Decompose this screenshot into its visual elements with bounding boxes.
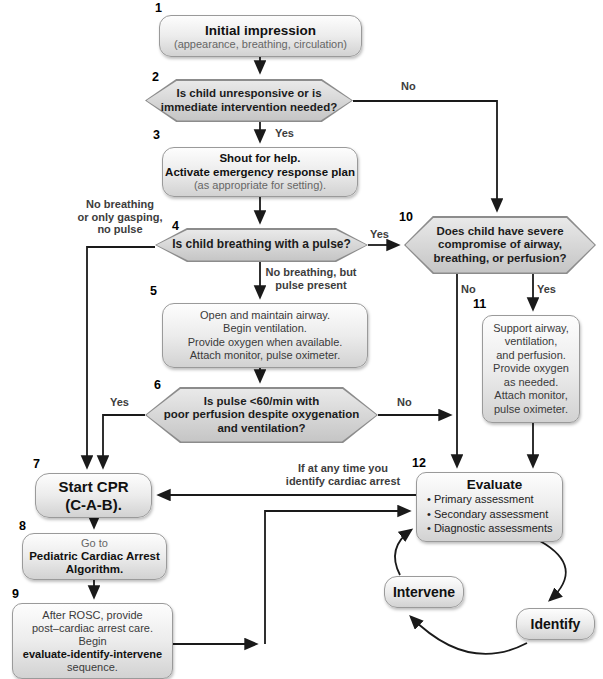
decision-line: breathing, or perfusion? (434, 252, 567, 266)
node-initial-impression: Initial impression (appearance, breathin… (159, 15, 362, 57)
edge-label-no-6: No (397, 396, 412, 409)
node-line: Algorithm. (66, 563, 124, 577)
node-line: pulse oximeter. (494, 403, 568, 417)
node-open-airway: Open and maintain airway. Begin ventilat… (162, 303, 368, 368)
edge-label-line: no pulse (68, 223, 172, 236)
decision-pulse-under-60: Is pulse <60/min with poor perfusion des… (145, 387, 378, 443)
step-number-9: 9 (12, 587, 19, 601)
decision-unresponsive: Is child unresponsive or is immediate in… (145, 79, 353, 122)
edge-label-line: identify cardiac arrest (277, 475, 409, 488)
node-title: Initial impression (205, 23, 316, 38)
node-line: as needed. (504, 376, 558, 390)
node-title: Evaluate (427, 477, 572, 492)
edge-label-line: If at any time you (277, 462, 409, 475)
node-line: Start CPR (58, 478, 128, 496)
edge-label-no-breathing-no-pulse: No breathing or only gasping, no pulse (68, 198, 172, 236)
node-support-airway: Support airway, ventilation, and perfusi… (482, 315, 580, 423)
edge-label-no-breathing-pulse-present: No breathing, but pulse present (250, 266, 372, 291)
node-cardiac-arrest-algorithm: Go to Pediatric Cardiac Arrest Algorithm… (22, 533, 167, 580)
node-line: Go to (81, 537, 108, 550)
node-line: (as appropriate for setting). (194, 179, 326, 192)
bullet-item: Diagnostic assessments (427, 521, 553, 536)
edge-label-line: No breathing (68, 198, 172, 211)
node-line: sequence. (67, 661, 118, 674)
node-evaluate: Evaluate Primary assessment Secondary as… (416, 472, 563, 542)
node-label: Identify (531, 616, 581, 632)
step-number-1: 1 (155, 1, 162, 15)
decision-severe-compromise: Does child have severe compromise of air… (404, 216, 596, 274)
decision-line: compromise of airway, (438, 238, 562, 252)
node-line: and perfusion. (496, 349, 566, 363)
step-number-12: 12 (412, 456, 426, 470)
edge-label-line: or only gasping, (68, 211, 172, 224)
decision-line: Is pulse <60/min with (204, 395, 319, 409)
node-line: Pediatric Cardiac Arrest (29, 550, 160, 564)
node-line: evaluate-identify-intervene (23, 648, 162, 661)
step-number-5: 5 (150, 284, 157, 298)
node-line: Shout for help. (219, 152, 300, 166)
edge-label-yes-6: Yes (110, 396, 129, 409)
step-number-7: 7 (33, 457, 40, 471)
node-line: Begin (78, 635, 106, 648)
node-line: Open and maintain airway. (200, 309, 330, 323)
edge-label-yes-4: Yes (370, 228, 389, 241)
node-shout-for-help: Shout for help. Activate emergency respo… (162, 147, 358, 197)
node-identify: Identify (516, 608, 595, 640)
node-line: Activate emergency response plan (165, 166, 355, 180)
node-line: (C-A-B). (65, 496, 122, 514)
decision-line: poor perfusion despite oxygenation (164, 408, 360, 422)
node-post-rosc-care: After ROSC, provide post–cardiac arrest … (12, 603, 173, 679)
edge-label-yes-2: Yes (275, 127, 294, 140)
node-line: Begin ventilation. (223, 322, 307, 336)
decision-line: Does child have severe (436, 225, 563, 239)
edge-label-line: No breathing, but (250, 266, 372, 279)
node-intervene: Intervene (384, 576, 464, 608)
step-number-11: 11 (473, 297, 486, 311)
bullet-item: Primary assessment (427, 492, 534, 507)
node-start-cpr: Start CPR (C-A-B). (35, 473, 152, 518)
decision-line: immediate intervention needed? (161, 101, 337, 115)
step-number-3: 3 (153, 128, 160, 142)
decision-line: Is child unresponsive or is (176, 87, 321, 101)
decision-line: Is child breathing with a pulse? (172, 238, 351, 252)
step-number-8: 8 (19, 519, 26, 533)
bullet-item: Secondary assessment (427, 507, 548, 522)
node-line: Provide oxygen (493, 362, 569, 376)
edge-label-yes-10: Yes (537, 283, 556, 296)
decision-breathing-with-pulse: Is child breathing with a pulse? (155, 228, 368, 262)
node-line: post–cardiac arrest care. (32, 622, 153, 635)
node-line: Support airway, (493, 322, 569, 336)
edge-label-line: pulse present (250, 279, 372, 292)
node-label: Intervene (393, 584, 455, 600)
edge-label-identify-cardiac-arrest: If at any time you identify cardiac arre… (277, 462, 409, 487)
node-line: ventilation, (505, 335, 558, 349)
node-subtitle: (appearance, breathing, circulation) (174, 38, 347, 50)
edge-label-no-10: No (461, 283, 476, 296)
node-line: Attach monitor, (494, 389, 567, 403)
node-line: After ROSC, provide (42, 609, 142, 622)
decision-line: and ventilation? (217, 422, 305, 436)
node-line: Attach monitor, pulse oximeter. (190, 349, 340, 363)
flowchart-canvas: 1 2 3 4 5 6 7 8 9 10 11 12 Initial impre… (0, 0, 603, 679)
node-line: Provide oxygen when available. (188, 336, 343, 350)
edge-label-no-2: No (401, 80, 416, 93)
